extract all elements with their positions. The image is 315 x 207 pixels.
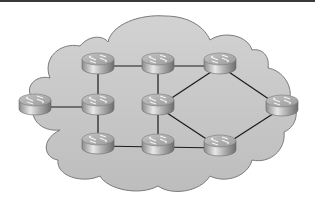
router-bottom-left-icon [82, 133, 114, 154]
router-far-right-icon [266, 95, 298, 116]
router-center-icon [142, 94, 174, 115]
router-bottom-middle-icon [142, 134, 174, 155]
router-far-left-icon [19, 94, 51, 115]
network-diagram [0, 0, 315, 207]
router-middle-left-icon [82, 94, 114, 115]
router-top-left-icon [82, 53, 114, 74]
router-bottom-right-icon [204, 135, 236, 156]
router-top-middle-icon [142, 53, 174, 74]
router-top-right-icon [204, 53, 236, 74]
